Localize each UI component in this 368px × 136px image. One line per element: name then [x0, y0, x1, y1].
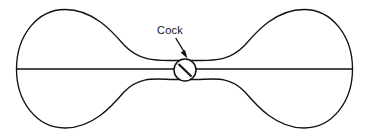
- cock-valve-symbol: [174, 59, 196, 81]
- callout-leader: [176, 39, 188, 59]
- callout-label: Cock: [157, 24, 183, 36]
- vessel-diagram: Cock: [0, 0, 368, 136]
- figure-canvas: Cock: [0, 0, 368, 136]
- leader-arrow-head-icon: [181, 50, 188, 59]
